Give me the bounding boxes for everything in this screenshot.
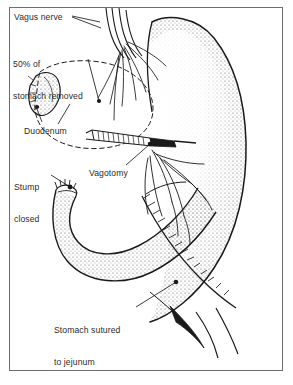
label-stump-closed: Stump closed: [14, 161, 39, 246]
illustration-figure: Vagus nerve 50% of stomach removed Duode…: [0, 0, 293, 385]
label-fifty-percent-line2: stomach removed: [13, 91, 83, 102]
label-vagus-nerve: Vagus nerve: [14, 12, 63, 23]
label-stomach-sutured-to-jejunum: Stomach sutured to jejunum: [54, 304, 120, 385]
label-duodenum: Duodenum: [24, 126, 67, 137]
label-fifty-percent-removed: 50% of stomach removed: [13, 38, 83, 123]
esophagus: [106, 8, 142, 60]
label-stomach-sutured-line2: to jejunum: [54, 357, 120, 368]
label-vagotomy: Vagotomy: [89, 168, 128, 179]
label-stump-closed-line1: Stump: [14, 182, 39, 193]
label-stump-closed-line2: closed: [14, 214, 39, 225]
label-stomach-sutured-line1: Stomach sutured: [54, 325, 120, 336]
label-fifty-percent-line1: 50% of: [13, 59, 83, 70]
